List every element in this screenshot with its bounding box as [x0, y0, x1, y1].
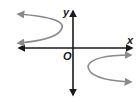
curve-upper-left-branch: [18, 14, 62, 43]
origin-label: O: [63, 50, 72, 62]
curve-lower-right-branch: [88, 55, 131, 82]
graph: y x O: [0, 0, 138, 102]
y-axis-label: y: [62, 6, 70, 18]
x-axis-label: x: [126, 34, 134, 46]
